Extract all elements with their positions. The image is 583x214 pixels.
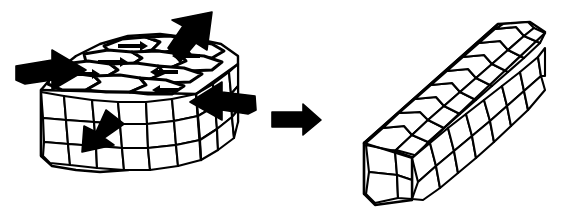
grain-deformation-diagram xyxy=(0,0,583,214)
front-face-grains xyxy=(41,92,201,170)
bar-front-grains xyxy=(366,145,412,203)
figure-canvas: Grain structure deformation during mecha… xyxy=(0,0,583,214)
